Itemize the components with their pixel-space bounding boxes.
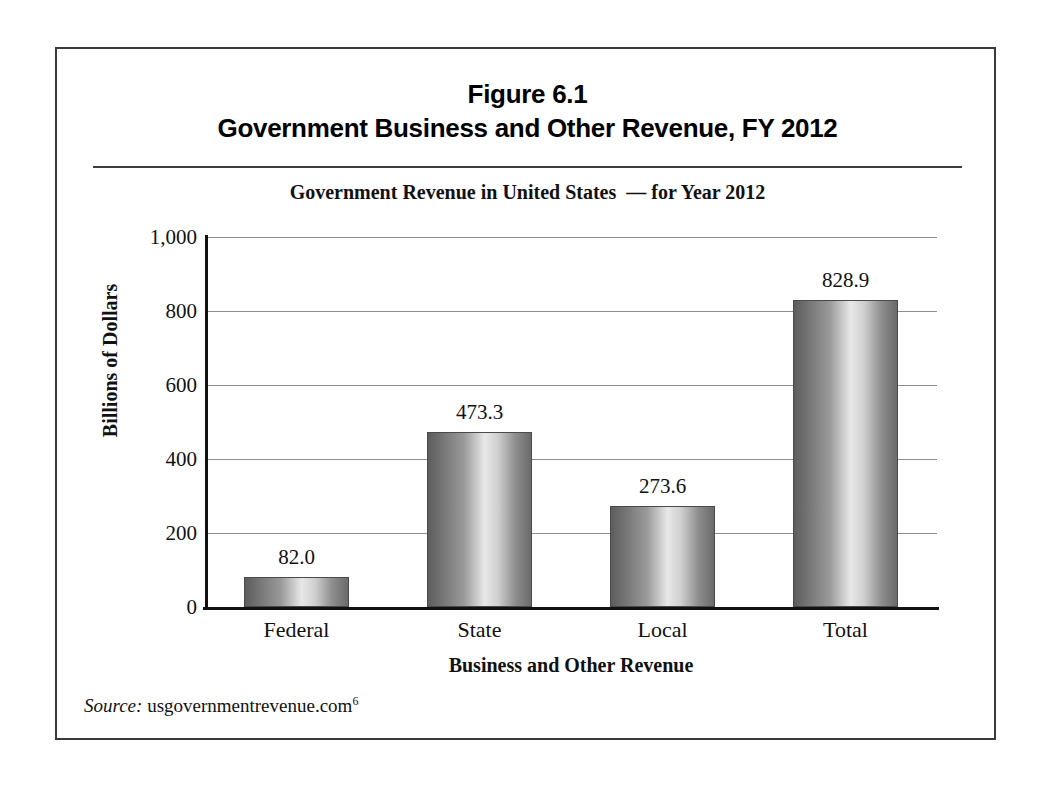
bar-value-label: 828.9: [766, 270, 926, 291]
bar-total: [793, 300, 898, 607]
y-axis-tick-label: 400: [117, 449, 197, 470]
y-axis-tick-label: 1,000: [117, 227, 197, 248]
x-axis-label-total: Total: [746, 619, 946, 641]
source-label: Source:: [84, 695, 142, 716]
source-footnote-marker: 6: [352, 694, 358, 708]
y-axis-tick-label: 600: [117, 375, 197, 396]
y-axis-tick-labels: 02004006008001,000: [109, 237, 197, 607]
bar-chart: Billions of Dollars 02004006008001,000 8…: [57, 49, 998, 742]
bar-value-label: 273.6: [583, 476, 743, 497]
bar-local: [610, 506, 715, 607]
x-axis-line: [203, 607, 939, 610]
bar-value-label: 473.3: [400, 402, 560, 423]
source-note: Source: usgovernmentrevenue.com6: [84, 694, 358, 717]
y-axis-tick-label: 0: [117, 597, 197, 618]
bar-federal: [244, 577, 349, 607]
plot-area: 82.0473.3273.6828.9: [205, 237, 937, 607]
y-axis-line: [205, 235, 208, 609]
bar-state: [427, 432, 532, 607]
source-value: usgovernmentrevenue.com: [142, 695, 352, 716]
x-axis-label-state: State: [380, 619, 580, 641]
y-axis-tick-label: 200: [117, 523, 197, 544]
y-axis-tick-label: 800: [117, 301, 197, 322]
x-axis-category-labels: FederalStateLocalTotal: [205, 619, 937, 649]
x-axis-title: Business and Other Revenue: [205, 654, 937, 677]
gridline: [205, 237, 937, 238]
x-axis-label-federal: Federal: [197, 619, 397, 641]
figure-frame: Figure 6.1 Government Business and Other…: [55, 47, 996, 740]
bar-value-label: 82.0: [217, 547, 377, 568]
x-axis-label-local: Local: [563, 619, 763, 641]
